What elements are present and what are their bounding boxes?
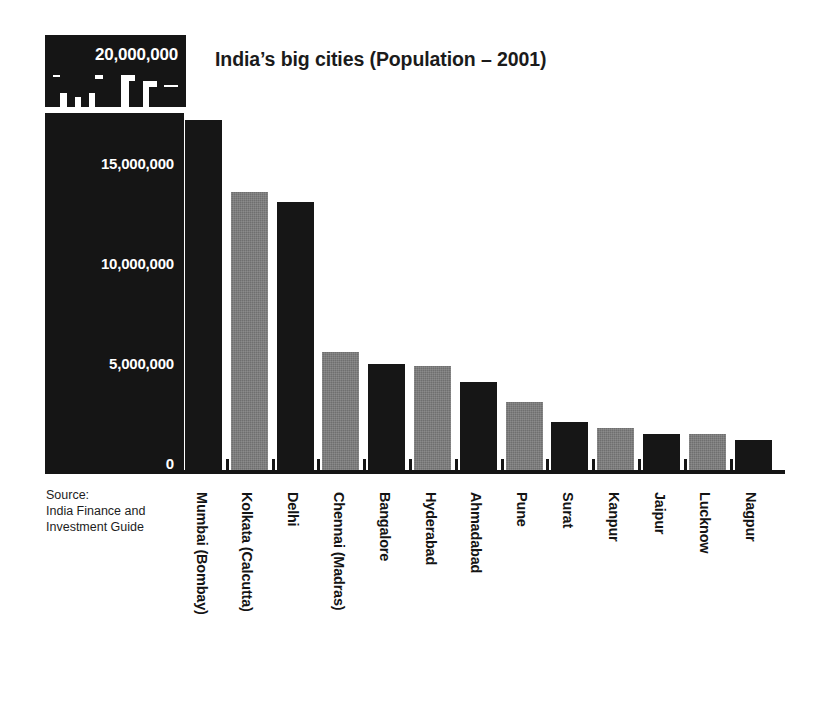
x-axis-label-chennai-madras: Chennai (Madras) xyxy=(331,492,347,610)
x-axis-label-surat: Surat xyxy=(560,492,576,528)
x-axis-label-kanpur: Kanpur xyxy=(606,492,622,542)
x-axis-tick xyxy=(272,459,275,470)
x-axis-label-delhi: Delhi xyxy=(285,492,301,526)
y-axis-panel: 15,000,00010,000,0005,000,0000 xyxy=(45,113,184,470)
x-axis-label-ahmadabad: Ahmadabad xyxy=(468,492,484,573)
chart-title: India’s big cities (Population – 2001) xyxy=(215,48,546,71)
bar-jaipur xyxy=(643,434,680,470)
skyline-badge: 20,000,000 xyxy=(45,35,186,107)
x-axis-label-jaipur: Jaipur xyxy=(652,492,668,534)
x-axis-label-nagpur: Nagpur xyxy=(743,492,759,542)
bar-lucknow xyxy=(689,434,726,470)
x-axis-tick xyxy=(363,459,366,470)
x-axis-label-bangalore: Bangalore xyxy=(377,492,393,561)
x-axis-tick xyxy=(226,459,229,470)
x-axis-label-mumbai-bombay: Mumbai (Bombay) xyxy=(194,492,210,615)
x-axis-tick xyxy=(455,459,458,470)
x-axis-tick xyxy=(501,459,504,470)
x-axis-tick xyxy=(317,459,320,470)
source-line-3: Investment Guide xyxy=(46,519,186,535)
bar-hyderabad xyxy=(414,366,451,470)
x-axis-baseline xyxy=(45,470,785,474)
x-axis-tick xyxy=(684,459,687,470)
y-tick-label: 10,000,000 xyxy=(101,255,174,272)
y-tick-label: 5,000,000 xyxy=(109,355,174,372)
bar-kanpur xyxy=(597,428,634,470)
bar-ahmadabad xyxy=(460,382,497,470)
bar-delhi xyxy=(277,202,314,470)
source-note: Source: India Finance and Investment Gui… xyxy=(46,487,186,535)
source-line-2: India Finance and xyxy=(46,503,186,519)
x-axis-tick xyxy=(638,459,641,470)
badge-value-label: 20,000,000 xyxy=(95,45,178,65)
x-axis-tick xyxy=(409,459,412,470)
source-line-1: Source: xyxy=(46,487,186,503)
bar-surat xyxy=(551,422,588,470)
bar-chennai-madras xyxy=(322,352,359,470)
x-axis-label-hyderabad: Hyderabad xyxy=(423,492,439,565)
bar-mumbai-bombay xyxy=(185,120,222,470)
bar-nagpur xyxy=(735,440,772,470)
bar-bangalore xyxy=(368,364,405,470)
x-axis-tick xyxy=(546,459,549,470)
x-axis-label-lucknow: Lucknow xyxy=(697,492,713,553)
plot-area xyxy=(185,113,785,470)
x-axis-tick xyxy=(730,459,733,470)
y-tick-label: 15,000,000 xyxy=(101,155,174,172)
bar-pune xyxy=(506,402,543,470)
x-axis-tick xyxy=(592,459,595,470)
x-axis-label-kolkata-calcutta: Kolkata (Calcutta) xyxy=(239,492,255,612)
x-axis-label-pune: Pune xyxy=(514,492,530,527)
bar-kolkata-calcutta xyxy=(231,192,268,470)
